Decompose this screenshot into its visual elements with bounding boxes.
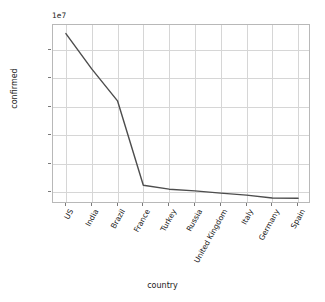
x-axis-tick-mark — [65, 203, 66, 206]
x-axis-tick-label: Brazil — [109, 208, 126, 230]
x-axis-tick-mark — [142, 203, 143, 206]
confirmed-line-series — [66, 34, 298, 199]
x-axis-label: country — [0, 281, 325, 290]
x-axis-tick-label: France — [133, 208, 152, 233]
data-line-svg — [53, 25, 311, 204]
x-axis-tick-label: Italy — [241, 208, 255, 226]
x-axis-tick-mark — [117, 203, 118, 206]
y-axis-tick-mark — [48, 77, 51, 78]
x-axis-tick-mark — [168, 203, 169, 206]
y-axis-tick-mark — [48, 191, 51, 192]
y-axis-tick-layer: 0.51.01.52.02.53.0 — [0, 0, 48, 302]
y-axis-tick-mark — [48, 106, 51, 107]
x-axis-tick-label: US — [63, 208, 75, 221]
y-axis-tick-mark — [48, 163, 51, 164]
x-axis-tick-label: Russia — [185, 208, 203, 233]
x-axis-tick-label: India — [85, 208, 100, 228]
x-axis-tick-mark — [194, 203, 195, 206]
y-axis-offset-text: 1e7 — [52, 11, 66, 20]
x-axis-tick-label: Turkey — [159, 208, 177, 233]
x-axis-tick-label: Germany — [258, 208, 281, 242]
y-axis-tick-mark — [48, 134, 51, 135]
x-axis-tick-mark — [220, 203, 221, 206]
x-axis-tick-mark — [297, 203, 298, 206]
x-axis-tick-mark — [271, 203, 272, 206]
x-axis-tick-mark — [91, 203, 92, 206]
chart-figure: 1e7 confirmed 0.51.01.52.02.53.0 USIndia… — [0, 0, 325, 302]
x-axis-tick-mark — [246, 203, 247, 206]
plot-area — [52, 24, 310, 203]
y-axis-tick-mark — [48, 49, 51, 50]
x-axis-tick-label: Spain — [290, 208, 307, 230]
